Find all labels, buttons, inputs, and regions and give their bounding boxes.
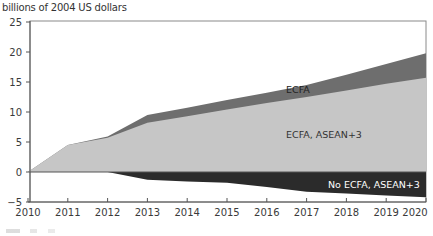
label-ecfa: ECFA — [286, 84, 310, 95]
x-tick-label: 2018 — [334, 207, 359, 218]
area-ecfa-asean — [28, 78, 426, 172]
x-tick-label: 2020 — [402, 207, 427, 218]
area-chart: −50510152025 201020112012201320142015201… — [0, 0, 433, 236]
label-no-ecfa-asean: No ECFA, ASEAN+3 — [328, 179, 420, 190]
y-tick-label: 15 — [9, 77, 22, 88]
x-tick-label: 2012 — [95, 207, 120, 218]
y-tick-label: 0 — [16, 167, 22, 178]
x-tick-label: 2017 — [294, 207, 319, 218]
x-tick-label: 2010 — [15, 207, 40, 218]
y-tick-label: −5 — [7, 197, 22, 208]
x-tick-label: 2011 — [55, 207, 80, 218]
y-axis-ticks: −50510152025 — [7, 17, 30, 208]
y-tick-label: 10 — [9, 107, 22, 118]
x-tick-label: 2015 — [214, 207, 239, 218]
x-tick-label: 2016 — [254, 207, 279, 218]
x-tick-label: 2014 — [174, 207, 199, 218]
x-axis-ticks: 2010201120122013201420152016201720182019… — [15, 198, 427, 218]
x-tick-label: 2019 — [373, 207, 398, 218]
y-tick-label: 5 — [16, 137, 22, 148]
label-ecfa-asean: ECFA, ASEAN+3 — [286, 129, 362, 140]
y-tick-label: 25 — [9, 17, 22, 28]
y-tick-label: 20 — [9, 47, 22, 58]
x-tick-label: 2013 — [135, 207, 160, 218]
cropped-source-note — [6, 229, 76, 233]
